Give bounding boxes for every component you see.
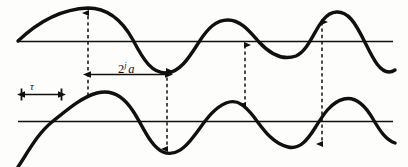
shift-measure-bar: [22, 89, 62, 101]
lower-waveform: [18, 92, 395, 167]
baselines-group: [18, 42, 393, 122]
figure-canvas: [0, 0, 408, 167]
wavelet-scale-shift-figure: 2ja τ: [0, 0, 408, 167]
upper-waveform-group: [18, 8, 395, 73]
lower-waveform-group: [18, 92, 395, 167]
upper-waveform: [18, 8, 395, 73]
